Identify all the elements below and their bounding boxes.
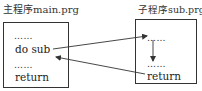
call-arrow (53, 36, 147, 49)
return-arrow (56, 57, 145, 74)
flow-arrows (0, 0, 202, 91)
